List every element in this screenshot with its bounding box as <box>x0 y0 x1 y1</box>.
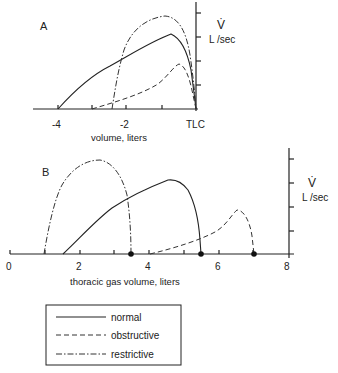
legend-label-normal: normal <box>111 312 142 323</box>
x-tick-label: -4 <box>52 119 61 130</box>
x-tick-label: 6 <box>215 261 221 272</box>
panel-a-x-label: volume, liters <box>91 132 147 143</box>
panel-a-y-unit: L /sec <box>209 34 235 45</box>
flow-volume-diagram: A -4 -2 TLC volume, liters V̇ L /sec B <box>0 0 338 373</box>
panel-b-label: B <box>42 166 49 178</box>
x-tick-label: 4 <box>145 261 151 272</box>
rv-marker-obstructive <box>251 251 257 257</box>
x-tick-label: 8 <box>284 261 290 272</box>
panel-b-y-symbol: V̇ <box>308 176 316 190</box>
panel-a-restrictive-curve <box>112 16 196 109</box>
x-tick-label: 2 <box>76 261 82 272</box>
rv-marker-normal <box>198 251 204 257</box>
panel-a-obstructive-curve <box>92 64 196 109</box>
panel-b-x-label: thoracic gas volume, liters <box>70 276 180 287</box>
panel-a-y-symbol: V̇ <box>217 18 225 32</box>
legend-label-restrictive: restrictive <box>111 349 154 360</box>
panel-b-normal-curve <box>63 180 201 254</box>
x-tick-label: 0 <box>6 261 12 272</box>
legend-label-obstructive: obstructive <box>111 330 160 341</box>
x-tick-label: TLC <box>186 119 205 130</box>
panel-b: B 0 2 4 6 8 thoracic gas volume, liters … <box>6 148 328 287</box>
panel-a-label: A <box>40 20 48 32</box>
panel-a: A -4 -2 TLC volume, liters V̇ L /sec <box>33 2 235 143</box>
panel-b-restrictive-curve <box>44 160 131 254</box>
x-tick-label: -2 <box>120 119 129 130</box>
panel-b-obstructive-curve <box>150 210 254 254</box>
panel-b-y-unit: L /sec <box>302 192 328 203</box>
legend: normal obstructive restrictive <box>46 305 181 365</box>
rv-marker-restrictive <box>128 251 134 257</box>
